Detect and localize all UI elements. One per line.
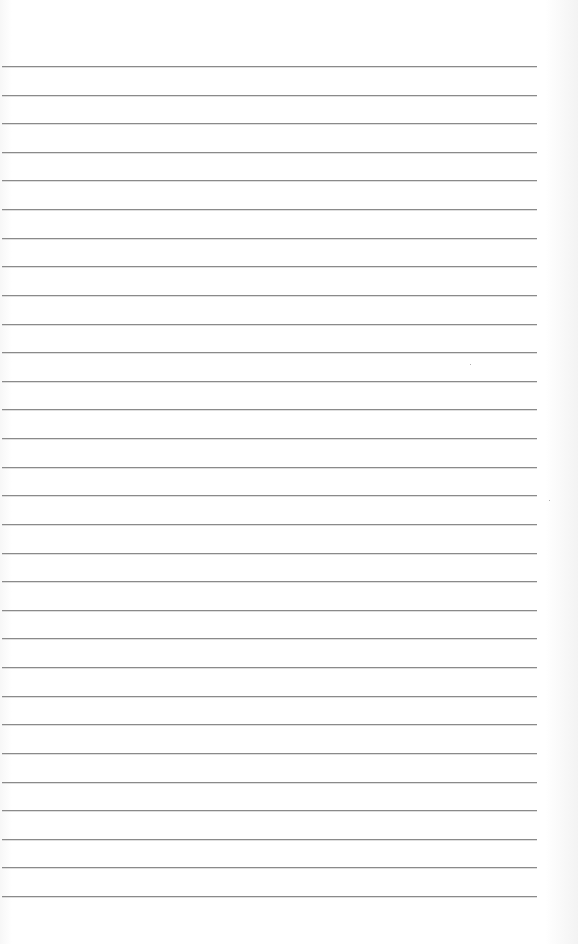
ruled-line (2, 123, 537, 124)
ruled-line (2, 782, 537, 783)
ruled-line (2, 438, 537, 439)
ruled-line (2, 724, 537, 725)
ruled-line (2, 553, 537, 554)
ruled-line (2, 753, 537, 754)
ruled-line (2, 209, 537, 210)
ruled-line (2, 295, 537, 296)
lined-paper-page (0, 0, 578, 944)
ruled-line (2, 810, 537, 811)
ruled-line (2, 352, 537, 353)
ruled-line (2, 581, 537, 582)
ruled-line (2, 409, 537, 410)
ruled-line (2, 867, 537, 868)
ruled-line (2, 324, 537, 325)
ruled-line (2, 66, 537, 67)
ruled-line (2, 638, 537, 639)
ruled-line (2, 152, 537, 153)
ruled-line (2, 238, 537, 239)
ruled-line (2, 896, 537, 897)
paper-speck (549, 500, 550, 501)
ruled-line (2, 495, 537, 496)
paper-speck (470, 364, 471, 365)
ruled-line (2, 95, 537, 96)
ruled-line (2, 524, 537, 525)
ruled-line (2, 610, 537, 611)
ruled-line (2, 381, 537, 382)
ruled-line (2, 696, 537, 697)
ruled-line (2, 266, 537, 267)
ruled-line (2, 467, 537, 468)
ruled-line (2, 667, 537, 668)
ruled-line (2, 839, 537, 840)
ruled-line (2, 180, 537, 181)
